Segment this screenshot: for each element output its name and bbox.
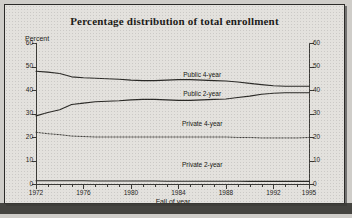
- scan-edge-band: [0, 203, 352, 214]
- y-tick-label-left: 30: [26, 110, 33, 117]
- x-tick-label: 1972: [29, 189, 43, 196]
- x-tick-label: 1984: [171, 189, 185, 196]
- series-label-private-4-year: Private 4-year: [181, 120, 223, 127]
- series-line-public-2-year: [36, 93, 309, 116]
- y-tick-label-right: 60: [313, 40, 320, 47]
- chart-frame: Percentage distribution of total enrollm…: [4, 4, 345, 204]
- series-line-public-4-year: [36, 71, 309, 86]
- series-label-public-2-year: Public 2-year: [182, 90, 222, 97]
- plot-area: 00101020203030404050506060 1972197619801…: [36, 43, 310, 185]
- chart-screenshot: Percentage distribution of total enrollm…: [0, 0, 352, 218]
- x-tick-label: 1976: [76, 189, 90, 196]
- x-tick-label: 1995: [302, 189, 316, 196]
- y-tick-label-left: 60: [26, 40, 33, 47]
- series-lines: [36, 43, 310, 185]
- y-tick-label-right: 20: [313, 134, 320, 141]
- x-tick-label: 1988: [219, 189, 233, 196]
- y-tick-label-right: 0: [313, 181, 317, 188]
- x-tick-label: 1980: [124, 189, 138, 196]
- y-tick-label-left: 20: [26, 134, 33, 141]
- y-tick-label-left: 0: [29, 181, 33, 188]
- y-tick-label-left: 50: [26, 63, 33, 70]
- x-tick-label: 1992: [266, 189, 280, 196]
- y-tick-label-left: 40: [26, 87, 33, 94]
- series-label-private-2-year: Private 2-year: [181, 161, 223, 168]
- y-tick-label-right: 50: [313, 63, 320, 70]
- y-tick-label-left: 10: [26, 157, 33, 164]
- y-tick-label-right: 30: [313, 110, 320, 117]
- y-tick-label-right: 40: [313, 87, 320, 94]
- series-line-private-4-year: [36, 132, 309, 138]
- chart-title: Percentage distribution of total enrollm…: [5, 15, 344, 27]
- series-line-private-2-year: [36, 181, 309, 182]
- series-label-public-4-year: Public 4-year: [182, 71, 222, 78]
- y-tick-label-right: 10: [313, 157, 320, 164]
